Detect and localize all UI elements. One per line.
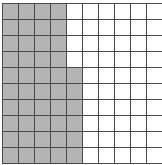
grid-cell-r5-c10 [147, 68, 162, 83]
grid-cell-r3-c9 [131, 36, 146, 51]
page-root [0, 0, 162, 165]
grid-cell-r9-c10 [147, 132, 162, 147]
grid-cell-r2-c5 [67, 20, 82, 35]
grid-cell-r6-c7 [99, 84, 114, 99]
grid-cell-r2-c7 [99, 20, 114, 35]
grid-cell-r6-c1 [3, 84, 18, 99]
shaded-grid-figure [2, 3, 162, 164]
grid-cell-r5-c6 [83, 68, 98, 83]
grid-cell-r2-c3 [35, 20, 50, 35]
grid-cell-r2-c1 [3, 20, 18, 35]
grid-cell-r9-c2 [19, 132, 34, 147]
grid-cell-r7-c6 [83, 100, 98, 115]
grid-cell-r10-c3 [35, 148, 50, 163]
grid-cell-r7-c1 [3, 100, 18, 115]
grid-cell-r4-c2 [19, 52, 34, 67]
grid-cell-r5-c9 [131, 68, 146, 83]
grid-cell-r1-c1 [3, 4, 18, 19]
grid-cell-r3-c6 [83, 36, 98, 51]
grid-cell-r1-c3 [35, 4, 50, 19]
grid-cell-r8-c9 [131, 116, 146, 131]
grid-cell-r9-c5 [67, 132, 82, 147]
grid-cell-r2-c2 [19, 20, 34, 35]
grid-cell-r9-c1 [3, 132, 18, 147]
grid-cell-r1-c6 [83, 4, 98, 19]
grid-cell-r10-c8 [115, 148, 130, 163]
grid-cell-r4-c4 [51, 52, 66, 67]
grid-cell-r7-c3 [35, 100, 50, 115]
grid-cell-r3-c8 [115, 36, 130, 51]
grid-cell-r5-c3 [35, 68, 50, 83]
grid-cell-r4-c3 [35, 52, 50, 67]
grid-cell-r6-c10 [147, 84, 162, 99]
grid-cell-r10-c1 [3, 148, 18, 163]
grid-cell-r8-c2 [19, 116, 34, 131]
grid-cell-r9-c4 [51, 132, 66, 147]
grid-cell-r8-c10 [147, 116, 162, 131]
grid-cell-r9-c9 [131, 132, 146, 147]
grid-cell-r7-c10 [147, 100, 162, 115]
grid-cell-r2-c6 [83, 20, 98, 35]
grid-cell-r5-c4 [51, 68, 66, 83]
grid-cell-r3-c4 [51, 36, 66, 51]
grid-cell-r9-c3 [35, 132, 50, 147]
grid-cell-r4-c5 [67, 52, 82, 67]
grid-cell-r2-c10 [147, 20, 162, 35]
grid-cell-r3-c7 [99, 36, 114, 51]
grid-cell-r7-c7 [99, 100, 114, 115]
grid-cell-r8-c3 [35, 116, 50, 131]
grid-cell-r1-c5 [67, 4, 82, 19]
grid-cell-r4-c8 [115, 52, 130, 67]
grid-cell-r6-c8 [115, 84, 130, 99]
grid-cell-r5-c5 [67, 68, 82, 83]
grid-cell-r6-c5 [67, 84, 82, 99]
grid-cell-r8-c7 [99, 116, 114, 131]
grid-cell-r3-c2 [19, 36, 34, 51]
grid-cell-r4-c10 [147, 52, 162, 67]
grid-cell-r3-c10 [147, 36, 162, 51]
grid-cell-r1-c10 [147, 4, 162, 19]
grid-cell-r9-c8 [115, 132, 130, 147]
grid-cell-r10-c2 [19, 148, 34, 163]
grid-cell-r6-c3 [35, 84, 50, 99]
grid-cell-r6-c2 [19, 84, 34, 99]
grid-cell-r10-c5 [67, 148, 82, 163]
grid-cell-r10-c7 [99, 148, 114, 163]
grid-cell-r5-c8 [115, 68, 130, 83]
grid-cell-r6-c4 [51, 84, 66, 99]
grid-cell-r10-c9 [131, 148, 146, 163]
grid-cell-r2-c4 [51, 20, 66, 35]
grid-cell-r3-c1 [3, 36, 18, 51]
grid-cell-r8-c5 [67, 116, 82, 131]
grid-cell-r10-c4 [51, 148, 66, 163]
grid-cell-r3-c3 [35, 36, 50, 51]
grid-cell-r8-c8 [115, 116, 130, 131]
grid-cell-r7-c9 [131, 100, 146, 115]
grid-cell-r9-c7 [99, 132, 114, 147]
grid-cell-r6-c6 [83, 84, 98, 99]
grid-cell-r9-c6 [83, 132, 98, 147]
grid-cell-r5-c7 [99, 68, 114, 83]
grid-cell-r1-c7 [99, 4, 114, 19]
grid-cell-r4-c7 [99, 52, 114, 67]
grid-cell-r1-c4 [51, 4, 66, 19]
grid-cell-r1-c8 [115, 4, 130, 19]
grid-cell-r8-c6 [83, 116, 98, 131]
grid-cell-r7-c2 [19, 100, 34, 115]
grid-cell-r7-c5 [67, 100, 82, 115]
grid-cell-r4-c1 [3, 52, 18, 67]
grid-cell-r7-c4 [51, 100, 66, 115]
grid-cell-r2-c8 [115, 20, 130, 35]
grid-cell-r6-c9 [131, 84, 146, 99]
grid-cell-r10-c10 [147, 148, 162, 163]
grid-cell-r5-c2 [19, 68, 34, 83]
grid-cell-r4-c9 [131, 52, 146, 67]
grid-cell-r7-c8 [115, 100, 130, 115]
grid-cell-r1-c9 [131, 4, 146, 19]
grid-cell-r8-c1 [3, 116, 18, 131]
grid-cell-r5-c1 [3, 68, 18, 83]
grid-cell-r3-c5 [67, 36, 82, 51]
grid-cell-r4-c6 [83, 52, 98, 67]
grid-cell-r8-c4 [51, 116, 66, 131]
grid-cell-r10-c6 [83, 148, 98, 163]
